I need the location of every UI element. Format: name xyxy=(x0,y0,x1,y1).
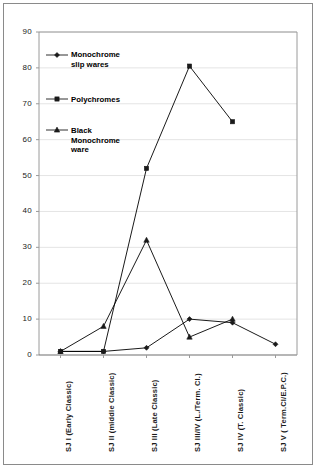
legend-entry-label-0: Monochrome slip wares xyxy=(71,50,120,69)
y-tick-label: 20 xyxy=(14,278,32,287)
y-tick-label: 80 xyxy=(14,63,32,72)
y-tick-label: 0 xyxy=(14,350,32,359)
series-line xyxy=(61,240,233,351)
series-line xyxy=(61,66,233,351)
axes xyxy=(36,32,297,358)
x-tick-label-4: SJ IV (T. Classic) xyxy=(236,389,245,452)
y-tick-label: 10 xyxy=(14,314,32,323)
y-tick-label: 70 xyxy=(14,99,32,108)
line-chart xyxy=(0,0,322,474)
data-point-triangle xyxy=(144,237,149,242)
x-tick-label-2: SJ III (Late Classic) xyxy=(150,379,159,452)
y-tick-label: 40 xyxy=(14,206,32,215)
x-tick-label-1: SJ II (middle Classic) xyxy=(107,373,116,452)
y-tick-label: 60 xyxy=(14,135,32,144)
data-point-square xyxy=(230,120,234,124)
legend-marker-diamond xyxy=(55,53,60,58)
data-point-triangle xyxy=(101,323,106,328)
series-triangle xyxy=(58,237,235,353)
legend-markers xyxy=(46,53,68,133)
legend-entry-label-1: Polychromes xyxy=(71,95,120,105)
y-tick-label: 50 xyxy=(14,171,32,180)
data-point-square xyxy=(187,64,191,68)
data-point-diamond xyxy=(187,317,192,322)
gridlines xyxy=(39,32,297,319)
series-layer xyxy=(58,64,278,354)
screenshot-root: 0102030405060708090 SJ I (Early Classic)… xyxy=(0,0,322,474)
y-tick-label: 30 xyxy=(14,242,32,251)
legend-entry-label-2: Black Monochrome ware xyxy=(71,126,120,155)
series-diamond xyxy=(58,317,278,354)
x-tick-label-3: SJ III/IV (L./Term. Cl.) xyxy=(193,373,202,452)
x-tick-label-5: SJ V ( Term.Cl/E.P.C.) xyxy=(279,372,288,452)
series-line xyxy=(61,319,276,351)
data-point-diamond xyxy=(144,345,149,350)
data-point-square xyxy=(144,166,148,170)
series-square xyxy=(58,64,234,354)
data-point-square xyxy=(101,349,105,353)
y-tick-label: 90 xyxy=(14,27,32,36)
data-point-diamond xyxy=(273,342,278,347)
x-tick-label-0: SJ I (Early Classic) xyxy=(64,381,73,452)
legend-marker-square xyxy=(55,97,59,101)
